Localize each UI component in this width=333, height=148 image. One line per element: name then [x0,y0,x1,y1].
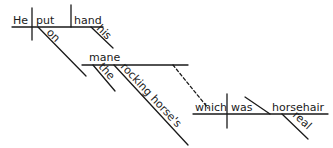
word-hand: hand [74,14,102,27]
rocking-horses-modifier-line [114,65,188,145]
word-on: on [44,26,63,45]
word-he: He [13,14,28,27]
word-put: put [36,14,55,27]
word-which: which [195,101,227,114]
word-rocking-horses: rocking horse's [118,60,185,130]
word-was: was [231,101,253,114]
sentence-diagram: He put hand his on mane the rocking hors… [0,0,333,148]
